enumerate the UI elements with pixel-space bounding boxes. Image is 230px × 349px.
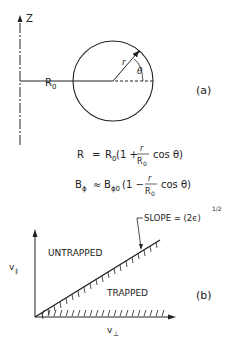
theta-label: θ	[137, 66, 143, 76]
slope-leader-line	[137, 218, 143, 248]
eq2-lhs: B	[75, 179, 82, 190]
v-parallel-arrow-icon	[33, 229, 38, 237]
v-parallel-sub: ∥	[15, 267, 18, 275]
eq2-frac-den-sub: 0	[151, 190, 155, 197]
eq2-approx: ≈	[93, 179, 101, 190]
eq1-lhs: R	[77, 149, 84, 160]
eq1-equals: =	[92, 149, 100, 160]
radius-tick-marker-icon	[134, 51, 140, 55]
major-radius-subscript: 0	[52, 83, 56, 91]
untrapped-region-label: UNTRAPPED	[48, 248, 102, 258]
eq1-frac-den-sub: 0	[143, 160, 147, 167]
equation-major-radius: R = R 0 (1 + r R 0 cos θ)	[77, 144, 183, 167]
eq2-b0-sub: ϕ0	[111, 185, 120, 193]
eq1-cos: cos θ)	[153, 149, 183, 160]
slope-label: SLOPE ≃ (2ϵ)	[144, 213, 201, 223]
v-perp-sub: ⊥	[113, 330, 119, 338]
eq2-lhs-sub: ϕ	[82, 185, 87, 193]
horizontal-hatching	[42, 310, 164, 316]
slope-exponent: 1/2	[212, 205, 222, 212]
panel-a: Z R 0 r θ (a)	[18, 13, 212, 145]
diagram-canvas: Z R 0 r θ (a) R = R 0 (1 + r R 0 cos θ) …	[0, 0, 230, 349]
equation-toroidal-field: B ϕ ≈ B ϕ0 (1 − r R 0 cos θ)	[75, 174, 191, 197]
eq2-frac-num: r	[148, 174, 152, 183]
panel-b-tag: (b)	[196, 289, 212, 302]
slope-leader-arrow-icon	[139, 244, 143, 250]
major-radius-label: R	[45, 77, 52, 88]
eq2-open: (1 −	[122, 179, 144, 190]
z-axis-arrow-icon	[18, 15, 23, 22]
eq2-cos: cos θ)	[161, 179, 191, 190]
eq2-b0: B	[104, 179, 111, 190]
panel-a-tag: (a)	[196, 84, 211, 97]
panel-b: v ∥ v ⊥	[9, 205, 222, 338]
trapped-region-label: TRAPPED	[106, 288, 148, 298]
v-perp-arrow-icon	[168, 315, 176, 320]
z-axis-label: Z	[26, 13, 33, 24]
eq1-open: (1 +	[116, 149, 138, 160]
eq1-r0: R	[105, 149, 112, 160]
eq1-frac-num: r	[140, 144, 144, 153]
